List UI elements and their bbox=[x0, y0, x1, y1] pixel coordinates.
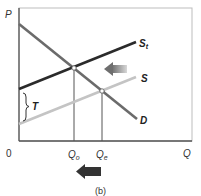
quantity-decrease-arrow-icon bbox=[76, 164, 101, 179]
supply-shift-arrow-icon bbox=[104, 62, 127, 76]
tax-brace-icon bbox=[23, 93, 29, 121]
taxed-equilibrium-point bbox=[72, 66, 76, 70]
q-e-label: Qe bbox=[96, 149, 108, 161]
origin-label: 0 bbox=[6, 148, 12, 159]
s-curve-label: S bbox=[141, 73, 148, 84]
y-axis-label: P bbox=[5, 9, 12, 20]
plot-frame bbox=[19, 8, 192, 141]
q-o-label: Qo bbox=[68, 149, 80, 161]
diagram-caption: (b) bbox=[95, 186, 106, 196]
tax-label: T bbox=[32, 101, 39, 112]
d-curve-label: D bbox=[140, 115, 147, 126]
x-axis-label: Q bbox=[183, 148, 191, 159]
tax-incidence-diagram: P Q 0 St S D T Qo Qe (b) bbox=[0, 0, 201, 196]
st-curve-label: St bbox=[139, 38, 149, 50]
original-equilibrium-point bbox=[100, 89, 104, 93]
